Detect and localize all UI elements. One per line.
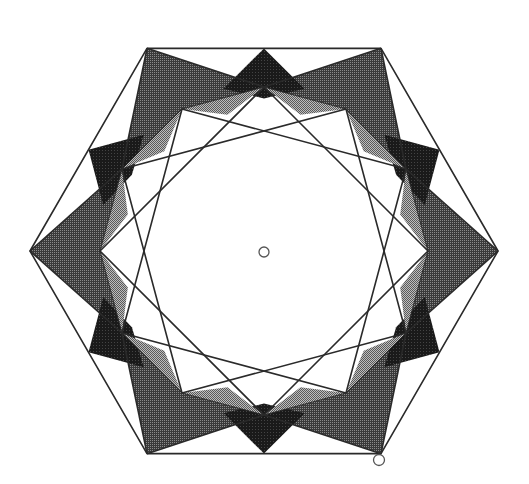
center-point-marker: [259, 247, 269, 257]
shaded-kite-dark: [224, 48, 305, 98]
geometric-figure: [0, 0, 529, 484]
vertex-point-marker: [374, 455, 385, 466]
shaded-kite-dark: [224, 404, 305, 454]
